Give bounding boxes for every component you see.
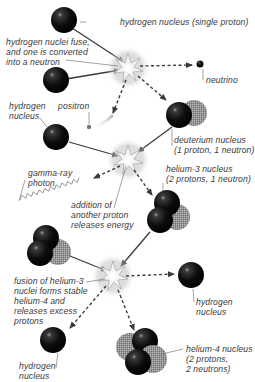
label-fuse: hydrogen nuclei fuse, and one is convert… xyxy=(6,37,90,67)
he4-proton-front xyxy=(125,349,151,375)
proton-h1 xyxy=(51,7,77,33)
label-fusion-he3: fusion of helium-3 nuclei forms stable h… xyxy=(14,276,88,326)
label-positron: positron xyxy=(58,101,89,111)
leader-gamma xyxy=(19,180,25,201)
proton-h-right xyxy=(178,262,204,288)
arrow-fusion1-to-deuterium xyxy=(138,76,166,100)
label-hydrogen-bottom: hydrogen nucleus xyxy=(19,361,56,381)
leader-helium4 xyxy=(162,349,183,354)
proton-h2 xyxy=(43,67,69,93)
fusion-burst-1 xyxy=(106,46,150,90)
leader-h-right xyxy=(193,289,194,302)
label-helium3: helium-3 nucleus (2 protons, 1 neutron) xyxy=(166,164,251,184)
label-addition: addition of another proton releases ener… xyxy=(71,200,134,230)
label-hydrogen-single: hydrogen nucleus (single proton) xyxy=(120,17,248,27)
label-neutrino: neutrino xyxy=(206,75,238,85)
deuterium-proton xyxy=(166,102,192,128)
label-hydrogen-left: hydrogen nucleus xyxy=(9,101,46,121)
leader-h-bottom xyxy=(56,353,58,368)
label-helium4: helium-4 nucleus (2 protons, 2 neutrons) xyxy=(186,344,253,374)
positron-trail xyxy=(89,116,112,128)
positron-particle xyxy=(87,125,91,129)
label-gamma: gamma-ray photon xyxy=(28,168,72,188)
label-hydrogen-right: hydrogen nucleus xyxy=(196,297,233,317)
neutrino-particle xyxy=(197,61,204,68)
proton-h-bottom xyxy=(40,327,66,353)
he3b-proton-front xyxy=(27,240,53,266)
arrow-fusion1-to-neutrino xyxy=(140,65,192,66)
he3a-proton-front xyxy=(147,207,173,233)
proton-h3 xyxy=(43,124,69,150)
label-deuterium: deuterium nucleus (1 proton, 1 neutron) xyxy=(174,135,254,155)
arrow-fusion3-to-he4 xyxy=(118,290,134,330)
fusion-burst-2 xyxy=(106,138,150,182)
